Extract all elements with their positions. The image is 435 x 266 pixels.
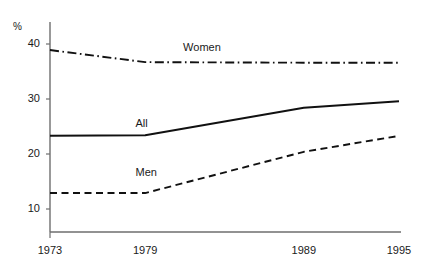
y-tick-label: 30 (10, 93, 40, 104)
x-tick-label: 1995 (377, 245, 421, 256)
chart-figure: % 10203040 1973197919891995 WomenAllMen (0, 0, 435, 266)
x-tick-label: 1979 (123, 245, 167, 256)
y-axis-unit-label: % (13, 22, 22, 32)
series-line-women (50, 50, 399, 63)
y-tick-label: 10 (10, 203, 40, 214)
data-series-group (50, 50, 399, 193)
x-tick-label: 1989 (282, 245, 326, 256)
x-tick-label: 1973 (28, 245, 72, 256)
series-label-all: All (136, 118, 148, 129)
series-label-men: Men (136, 167, 157, 178)
y-tick-label: 20 (10, 148, 40, 159)
series-line-all (50, 101, 399, 136)
series-line-men (50, 136, 399, 193)
series-label-women: Women (183, 42, 221, 53)
y-tick-label: 40 (10, 38, 40, 49)
line-chart-plot (0, 0, 435, 266)
